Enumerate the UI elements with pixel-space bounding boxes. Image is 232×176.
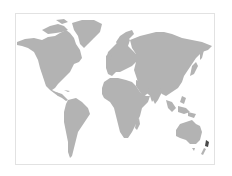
region-central-america	[56, 90, 70, 101]
region-tasmania	[192, 148, 195, 151]
region-southeast-asia[interactable]	[166, 96, 196, 118]
region-new-zealand-highlighted[interactable]	[205, 140, 209, 147]
region-india	[152, 86, 162, 104]
region-north-america[interactable]	[17, 30, 82, 96]
region-new-zealand-south-island	[201, 148, 206, 155]
world-map	[0, 0, 232, 176]
region-south-america[interactable]	[64, 98, 90, 158]
region-greenland[interactable]	[72, 20, 102, 48]
region-australia[interactable]	[176, 120, 202, 144]
